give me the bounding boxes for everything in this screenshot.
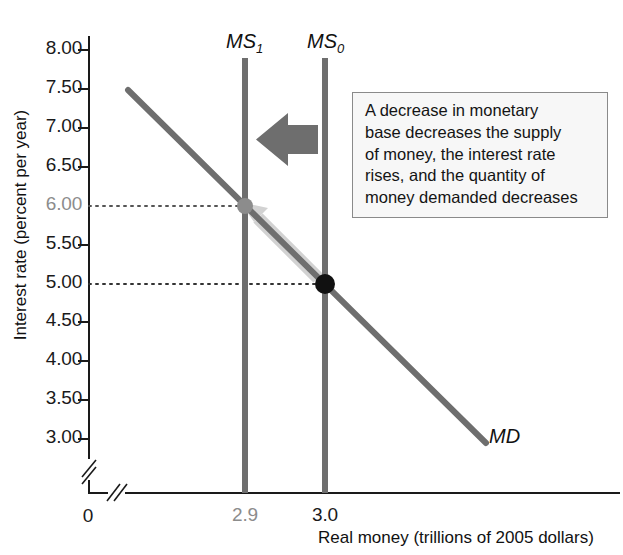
md-curve-label: MD [489,425,520,448]
origin-label: 0 [58,505,118,527]
ms0-label-text: MS [307,30,337,52]
annotation-line: money demanded decreases [365,187,597,209]
xtick-3-0: 3.0 [295,504,355,526]
annotation-line: of money, the interest rate [365,144,597,166]
ms0-curve-label: MS0 [307,30,344,56]
chart-canvas [0,0,623,555]
ms1-label-text: MS [226,30,256,52]
ms1-curve-label: MS1 [226,30,263,56]
x-axis-break-mark [107,484,120,501]
ms1-label-subscript: 1 [256,41,263,56]
ms0-label-subscript: 0 [337,41,344,56]
xtick-2-9: 2.9 [215,504,275,526]
annotation-line: base decreases the supply [365,122,597,144]
y-axis-title: Interest rate (percent per year) [11,65,31,385]
new-equilibrium-point [237,198,253,214]
initial-equilibrium-point [315,274,335,294]
annotation-line: A decrease in monetary [365,100,597,122]
x-axis-title: Real money (trillions of 2005 dollars) [318,528,594,548]
supply-shift-arrow [256,113,318,166]
annotation-line: rises, and the quantity of [365,165,597,187]
money-market-diagram: 8.00 7.50 7.00 6.50 6.00 5.50 5.00 4.50 … [0,0,623,555]
annotation-textbox: A decrease in monetary base decreases th… [352,92,608,218]
